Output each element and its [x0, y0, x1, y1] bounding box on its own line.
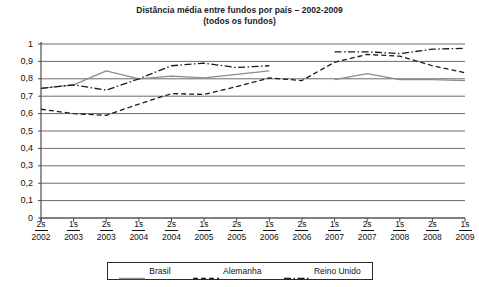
y-tick-label: 0,5: [7, 127, 33, 136]
x-tick-separator: [328, 230, 341, 231]
x-tick-year: 2007: [318, 232, 352, 242]
y-tick-label: 1: [7, 40, 33, 49]
x-tick-year: 2005: [220, 232, 254, 242]
axes-group: [41, 42, 465, 222]
x-tick-year: 2009: [448, 232, 479, 242]
x-tick-semester: 2s: [415, 219, 449, 229]
x-tick-separator: [100, 230, 113, 231]
x-tick-year: 2005: [187, 232, 221, 242]
x-tick-year: 2008: [383, 232, 417, 242]
legend-label: Alemanha: [223, 267, 261, 276]
y-tick-label: 0,6: [7, 109, 33, 118]
legend-item-reino-unido: Reino Unido: [284, 267, 361, 276]
chart-title: Distância média entre fundos por país – …: [0, 5, 479, 16]
series-line-reino-unido: [41, 63, 269, 90]
x-tick-separator: [459, 230, 472, 231]
x-tick-semester: 2s: [24, 219, 58, 229]
x-tick-semester: 2s: [285, 219, 319, 229]
x-tick-label: 1s2003: [57, 219, 91, 242]
legend-item-brasil: Brasil: [119, 267, 170, 276]
legend-label: Brasil: [149, 267, 170, 276]
x-tick-year: 2004: [154, 232, 188, 242]
x-tick-separator: [263, 230, 276, 231]
series-group: [41, 48, 465, 115]
x-tick-semester: 2s: [350, 219, 384, 229]
chart-title-block: Distância média entre fundos por país – …: [0, 5, 479, 27]
x-tick-separator: [393, 230, 406, 231]
x-tick-semester: 1s: [448, 219, 479, 229]
legend-item-alemanha: Alemanha: [193, 267, 261, 276]
x-tick-year: 2003: [89, 232, 123, 242]
chart-subtitle: (todos os fundos): [0, 16, 479, 27]
x-tick-year: 2006: [252, 232, 286, 242]
x-tick-label: 1s2006: [252, 219, 286, 242]
x-tick-year: 2008: [415, 232, 449, 242]
y-tick-label: 0,8: [7, 74, 33, 83]
x-tick-semester: 1s: [187, 219, 221, 229]
x-tick-label: 1s2009: [448, 219, 479, 242]
series-line-reino-unido: [335, 48, 465, 53]
chart-figure: Distância média entre fundos por país – …: [0, 0, 479, 287]
y-tick-label: 0,2: [7, 179, 33, 188]
x-tick-semester: 1s: [122, 219, 156, 229]
x-tick-separator: [35, 230, 48, 231]
x-tick-label: 2s2006: [285, 219, 319, 242]
legend-label: Reino Unido: [314, 267, 361, 276]
series-line-brasil: [335, 74, 465, 81]
x-tick-separator: [361, 230, 374, 231]
x-tick-separator: [165, 230, 178, 231]
x-tick-semester: 1s: [57, 219, 91, 229]
chart-canvas: [0, 30, 479, 230]
x-tick-label: 2s2003: [89, 219, 123, 242]
x-tick-semester: 1s: [383, 219, 417, 229]
gridlines-group: [41, 44, 465, 218]
y-tick-label: 0,3: [7, 161, 33, 170]
x-axis-labels: 2s20021s20032s20031s20042s20041s20052s20…: [0, 219, 479, 255]
chart-legend: BrasilAlemanhaReino Unido: [107, 262, 373, 280]
x-tick-semester: 2s: [89, 219, 123, 229]
x-tick-year: 2002: [24, 232, 58, 242]
x-tick-separator: [426, 230, 439, 231]
x-tick-semester: 1s: [318, 219, 352, 229]
x-tick-semester: 1s: [252, 219, 286, 229]
x-tick-label: 1s2008: [383, 219, 417, 242]
x-tick-year: 2004: [122, 232, 156, 242]
x-tick-year: 2003: [57, 232, 91, 242]
y-tick-label: 0,9: [7, 57, 33, 66]
series-line-brasil: [41, 71, 269, 88]
x-tick-label: 2s2002: [24, 219, 58, 242]
x-tick-separator: [198, 230, 211, 231]
plot-area: 10,90,80,70,60,50,40,30,20,10: [0, 30, 479, 230]
x-tick-separator: [132, 230, 145, 231]
x-tick-year: 2007: [350, 232, 384, 242]
x-tick-separator: [67, 230, 80, 231]
x-tick-year: 2006: [285, 232, 319, 242]
x-tick-semester: 2s: [154, 219, 188, 229]
series-line-alemanha: [41, 54, 465, 115]
x-tick-separator: [230, 230, 243, 231]
y-tick-label: 0,7: [7, 92, 33, 101]
legend-swatch-icon: [119, 268, 145, 275]
x-tick-label: 1s2004: [122, 219, 156, 242]
x-tick-label: 2s2007: [350, 219, 384, 242]
x-tick-semester: 2s: [220, 219, 254, 229]
x-tick-label: 1s2005: [187, 219, 221, 242]
x-tick-label: 2s2005: [220, 219, 254, 242]
legend-swatch-icon: [193, 268, 219, 275]
x-tick-label: 2s2004: [154, 219, 188, 242]
legend-swatch-icon: [284, 268, 310, 275]
x-tick-label: 1s2007: [318, 219, 352, 242]
x-tick-label: 2s2008: [415, 219, 449, 242]
y-tick-label: 0,1: [7, 196, 33, 205]
x-tick-marks-group: [38, 44, 465, 222]
x-tick-separator: [295, 230, 308, 231]
y-tick-label: 0,4: [7, 144, 33, 153]
